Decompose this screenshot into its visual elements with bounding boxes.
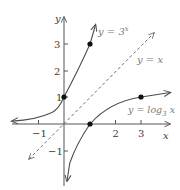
point-3-1	[138, 94, 143, 99]
exponential-label-sup: x	[125, 25, 129, 33]
y-tick-label-3: 3	[54, 39, 60, 50]
logarithm-label-tail: x	[167, 104, 176, 115]
logarithm-label: y = log3 x	[127, 104, 176, 118]
identity-label: y = x	[136, 54, 163, 65]
identity-line	[29, 33, 154, 159]
logarithm-label-main: y = log	[127, 104, 162, 115]
x-tick-label-2: 2	[113, 128, 119, 139]
function-graph: −1 2 3 3 2 1 −1 y x y = 3x y = x y = log…	[0, 0, 180, 190]
y-axis-label: y	[54, 13, 61, 24]
exponential-label-main: y = 3	[97, 26, 125, 37]
point-1-3	[87, 41, 92, 46]
point-1-0	[87, 121, 92, 126]
x-tick-label-3: 3	[138, 128, 144, 139]
x-tick-label-minus1: −1	[32, 128, 47, 139]
exponential-label: y = 3x	[97, 25, 129, 37]
y-tick-label-2: 2	[54, 66, 60, 77]
point-0-1	[61, 94, 66, 99]
x-axis-label: x	[163, 130, 169, 141]
y-tick-label-minus1: −1	[48, 146, 63, 157]
